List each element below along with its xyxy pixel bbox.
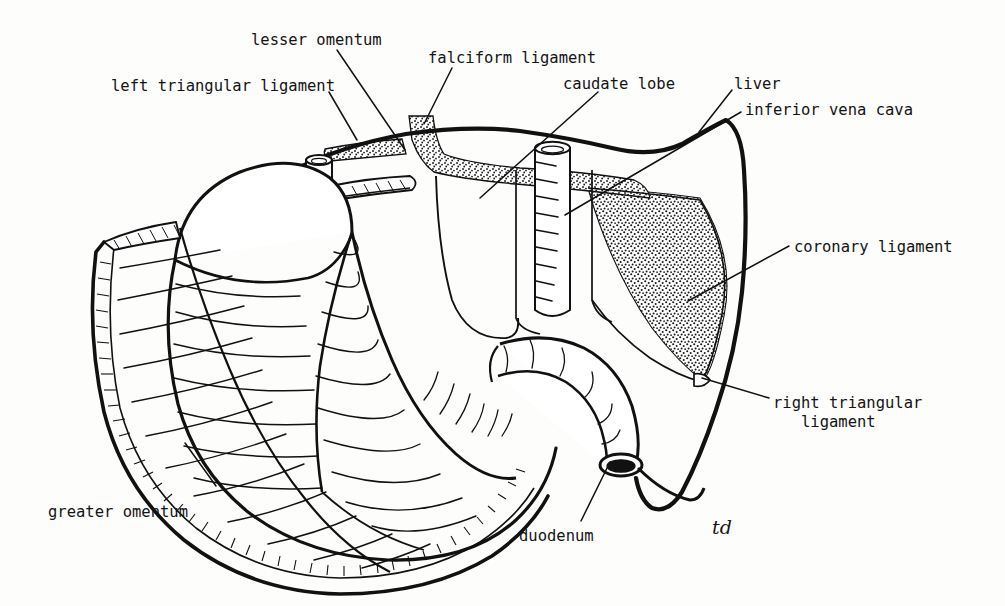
coronary-ligament-shape: [588, 188, 727, 381]
caudate-lobe-shape: [436, 176, 518, 338]
label-greater-omentum: greater omentum: [48, 503, 188, 522]
label-right-triangular-ligament: right triangular ligament: [773, 394, 922, 432]
duodenum-shape: [498, 338, 704, 500]
label-falciform-ligament: falciform ligament: [428, 49, 596, 68]
label-liver: liver: [734, 75, 781, 94]
leader-right-triangular-ligament: [702, 378, 769, 398]
anatomical-figure: lesser omentum left triangular ligament …: [0, 0, 1005, 606]
label-duodenum: duodenum: [519, 527, 594, 546]
leader-left-triangular-ligament: [329, 92, 357, 140]
label-coronary-ligament: coronary ligament: [794, 238, 953, 257]
label-caudate-lobe: caudate lobe: [563, 75, 675, 94]
inferior-vena-cava-shape: [535, 142, 570, 316]
label-left-triangular-ligament: left triangular ligament: [111, 77, 335, 96]
label-inferior-vena-cava: inferior vena cava: [745, 101, 913, 120]
label-lesser-omentum: lesser omentum: [251, 31, 382, 50]
leader-lesser-omentum: [337, 50, 405, 150]
artist-signature: td: [712, 516, 732, 538]
leader-duodenum: [581, 462, 610, 521]
pyloric-junction: [490, 346, 498, 382]
leader-falciform-ligament: [424, 68, 452, 124]
